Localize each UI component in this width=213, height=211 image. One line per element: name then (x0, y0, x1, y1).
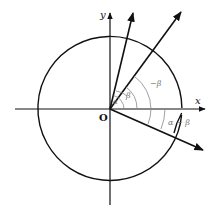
origin-label: O (99, 113, 108, 123)
x-axis-label: x (195, 96, 201, 106)
neg-beta-label: −β (150, 80, 161, 88)
unit-circle-lower (39, 27, 183, 171)
unit-circle-diagram: y x O α β −β α − β (0, 0, 213, 211)
arc-alpha-minus-beta (161, 109, 165, 129)
arc-neg-beta (134, 76, 151, 124)
diagram-canvas (0, 0, 213, 211)
alpha-label: α (113, 99, 118, 106)
alpha-minus-beta-label: α − β (168, 119, 190, 127)
vector-alpha-minus-beta (110, 109, 203, 150)
vector-beta (110, 12, 181, 109)
y-axis-label: y (100, 10, 106, 20)
beta-label: β (126, 92, 131, 100)
